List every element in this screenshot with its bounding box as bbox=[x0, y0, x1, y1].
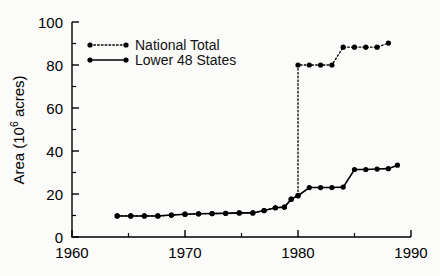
data-point-0-18 bbox=[318, 62, 323, 67]
data-point-0-17 bbox=[307, 62, 312, 67]
legend-marker-end-0 bbox=[123, 42, 128, 47]
legend-marker-start-0 bbox=[87, 42, 92, 47]
data-point-0-23 bbox=[375, 45, 380, 50]
axis-frame bbox=[72, 22, 411, 237]
data-point-1-2 bbox=[142, 213, 147, 218]
data-point-1-13 bbox=[282, 205, 287, 210]
data-point-1-1 bbox=[128, 213, 133, 218]
data-point-1-23 bbox=[386, 166, 391, 171]
legend-item-0: National Total bbox=[87, 37, 219, 53]
chart-canvas: 1960197019801990 020406080100 Area (106 … bbox=[0, 0, 440, 276]
data-point-1-3 bbox=[155, 213, 160, 218]
legend-marker-start-1 bbox=[87, 57, 92, 62]
data-point-1-0 bbox=[115, 213, 120, 218]
x-axis-tick-labels: 1960197019801990 bbox=[55, 244, 427, 261]
data-point-1-15 bbox=[295, 193, 300, 198]
data-point-1-24 bbox=[395, 163, 400, 168]
y-tick-label-80: 80 bbox=[46, 57, 63, 74]
x-tick-label-1970: 1970 bbox=[168, 244, 201, 261]
legend-item-1: Lower 48 States bbox=[87, 52, 236, 68]
data-point-0-21 bbox=[352, 45, 357, 50]
data-point-1-11 bbox=[262, 208, 267, 213]
data-point-0-24 bbox=[386, 40, 391, 45]
data-point-1-7 bbox=[210, 211, 215, 216]
legend-label-0: National Total bbox=[135, 37, 220, 53]
y-tick-label-40: 40 bbox=[46, 143, 63, 160]
y-tick-label-100: 100 bbox=[38, 14, 63, 31]
axes: 1960197019801990 020406080100 bbox=[38, 14, 428, 262]
series-line-0 bbox=[117, 43, 388, 216]
y-tick-label-60: 60 bbox=[46, 100, 63, 117]
y-axis-title-text: Area (106 acres) bbox=[8, 75, 27, 184]
data-point-1-5 bbox=[182, 212, 187, 217]
x-tick-label-1980: 1980 bbox=[281, 244, 314, 261]
y-tick-label-0: 0 bbox=[55, 229, 63, 246]
data-point-0-19 bbox=[329, 62, 334, 67]
data-point-1-6 bbox=[196, 211, 201, 216]
y-axis-title: Area (106 acres) bbox=[8, 75, 27, 184]
data-point-1-20 bbox=[352, 167, 357, 172]
data-point-0-20 bbox=[341, 45, 346, 50]
data-point-1-16 bbox=[307, 185, 312, 190]
data-point-1-14 bbox=[289, 197, 294, 202]
data-point-1-18 bbox=[329, 185, 334, 190]
x-tick-label-1990: 1990 bbox=[394, 244, 427, 261]
data-point-1-10 bbox=[250, 210, 255, 215]
data-point-1-12 bbox=[273, 205, 278, 210]
chart-legend: National TotalLower 48 States bbox=[87, 37, 236, 68]
data-point-1-22 bbox=[375, 166, 380, 171]
data-point-0-16 bbox=[295, 62, 300, 67]
data-point-1-9 bbox=[237, 210, 242, 215]
data-point-1-17 bbox=[318, 185, 323, 190]
data-point-1-21 bbox=[363, 167, 368, 172]
legend-label-1: Lower 48 States bbox=[135, 52, 236, 68]
y-tick-label-20: 20 bbox=[46, 186, 63, 203]
data-point-1-4 bbox=[169, 212, 174, 217]
x-tick-label-1960: 1960 bbox=[55, 244, 88, 261]
series-lower-48-states bbox=[115, 163, 400, 219]
legend-marker-end-1 bbox=[123, 57, 128, 62]
data-point-1-19 bbox=[341, 185, 346, 190]
chart-figure: 1960197019801990 020406080100 Area (106 … bbox=[0, 0, 440, 276]
data-point-1-8 bbox=[223, 211, 228, 216]
data-point-0-22 bbox=[363, 45, 368, 50]
series-line-1 bbox=[117, 165, 397, 216]
y-axis-tick-labels: 020406080100 bbox=[38, 14, 63, 246]
